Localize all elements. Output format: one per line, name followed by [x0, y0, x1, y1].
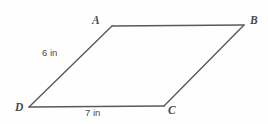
- segment-bc: [164, 25, 244, 106]
- vertex-label-d: D: [15, 102, 23, 114]
- parallelogram-shape: [0, 0, 268, 124]
- segment-ab: [112, 25, 244, 26]
- side-length-label-ad: 6 in: [42, 48, 57, 58]
- parallelogram-figure: A B C D 6 in 7 in: [0, 0, 268, 124]
- vertex-label-c: C: [168, 105, 176, 117]
- vertex-label-b: B: [250, 15, 258, 27]
- segment-da: [29, 26, 112, 107]
- vertex-label-a: A: [92, 15, 100, 27]
- side-length-label-dc: 7 in: [85, 108, 100, 118]
